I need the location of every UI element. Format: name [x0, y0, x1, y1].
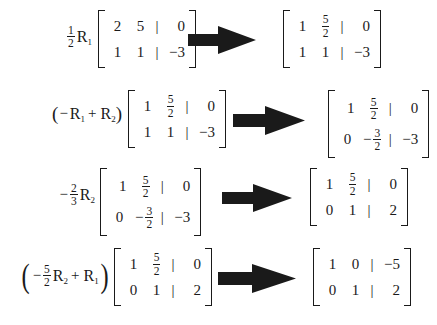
reduction-step-4: ( − 5 2 R2 + R1 ) 1 5 2 | 0 — [0, 240, 437, 320]
row-letter: R — [70, 105, 81, 122]
fraction-denominator: 2 — [349, 184, 357, 197]
matrix-row: 1 5 2 | 0 — [122, 251, 204, 277]
fraction-five-halves: 5 2 — [42, 263, 52, 289]
matrix-cell-fraction: 5 2 — [159, 93, 182, 119]
matrix-body: 1 5 2 | 0 0 − 3 2 — [335, 90, 422, 158]
fraction-denominator: 2 — [373, 139, 381, 152]
fraction-numerator: 1 — [67, 24, 75, 36]
fraction-denominator: 2 — [145, 217, 153, 230]
row-letter: R — [77, 28, 88, 45]
fraction-five-halves: 5 2 — [166, 93, 176, 119]
matrix-body: 1 5 2 | 0 0 1 | 2 — [121, 248, 205, 306]
bracket-right-icon — [422, 90, 429, 158]
fraction-numerator: 5 — [153, 251, 161, 263]
bracket-right-icon — [404, 248, 411, 306]
bracket-right-icon — [401, 168, 408, 226]
matrix-cell: 1 — [129, 45, 152, 60]
matrix-body: 2 5 | 0 1 1 | −3 — [105, 10, 189, 68]
row-symbol-R2: R2 — [100, 106, 116, 122]
augment-bar: | — [364, 177, 374, 192]
matrix-cell: 1 — [122, 257, 145, 272]
matrix-cell: 0 — [122, 283, 145, 298]
matrix-cell: −3 — [395, 132, 421, 147]
minus-sign: − — [134, 210, 144, 225]
fraction-five-halves: 5 2 — [321, 13, 331, 39]
reduction-step-1: 1 2 R1 2 5 | 0 1 1 | −3 — [0, 2, 437, 82]
matrix-row: 1 1 | −3 — [136, 119, 218, 145]
bracket-left-icon — [98, 10, 105, 68]
matrix-row: 1 5 2 | 0 — [336, 93, 421, 124]
matrix-cell: 1 — [291, 19, 314, 34]
row-index: 1 — [88, 37, 93, 47]
fraction-numerator: 3 — [145, 205, 153, 217]
bracket-left-icon — [328, 90, 335, 158]
matrix-row: 0 1 | 2 — [122, 277, 204, 303]
operation-label-1: 1 2 R1 — [0, 24, 92, 50]
fraction-denominator: 3 — [70, 194, 78, 207]
fraction-five-halves: 5 2 — [152, 251, 162, 277]
matrix-cell: −3 — [192, 125, 218, 140]
fraction-numerator: 5 — [349, 171, 357, 183]
row-index: 2 — [64, 276, 69, 286]
bracket-left-icon — [114, 248, 121, 306]
matrix-cell: 1 — [111, 179, 134, 194]
matrix-cell: 0 — [321, 283, 344, 298]
fraction-two-thirds: 2 3 — [69, 182, 79, 208]
matrix-row: 0 1 | 2 — [318, 197, 400, 223]
fraction-denominator: 2 — [43, 275, 51, 288]
matrix-cell-fraction: 5 2 — [314, 13, 337, 39]
matrix-row: 0 1 | 2 — [321, 277, 403, 303]
matrix-cell: −3 — [162, 45, 188, 60]
fraction-denominator: 2 — [167, 106, 175, 119]
minus-sign: − — [59, 187, 69, 202]
matrix-row: 1 5 2 | 0 — [318, 171, 400, 197]
augment-bar: | — [367, 283, 377, 298]
row-letter: R — [53, 267, 64, 284]
fraction-numerator: 3 — [373, 127, 381, 139]
matrix-row: 1 5 2 | 0 — [108, 171, 193, 202]
plus-sign: + — [68, 268, 82, 283]
operation-label-3: − 2 3 R2 — [0, 182, 95, 208]
matrix-cell: −3 — [347, 45, 373, 60]
fraction-five-halves: 5 2 — [141, 174, 151, 200]
fraction-five-halves: 5 2 — [369, 96, 379, 122]
operation-label-2: ( − R1 + R2 ) — [0, 104, 122, 123]
matrix-cell: 5 — [129, 19, 152, 34]
row-index: 1 — [81, 114, 86, 124]
minus-sign: − — [32, 268, 42, 283]
bracket-left-icon — [283, 10, 290, 68]
matrix-cell-fraction: − 3 2 — [359, 127, 385, 153]
augment-bar: | — [152, 45, 162, 60]
matrix-cell: 1 — [339, 101, 362, 116]
bracket-left-icon — [310, 168, 317, 226]
matrix-row: 1 0 | −5 — [321, 251, 403, 277]
matrix-row: 1 5 2 | 0 — [291, 13, 373, 39]
matrix-cell: 0 — [167, 179, 193, 194]
augment-bar: | — [385, 101, 395, 116]
augment-bar: | — [337, 19, 347, 34]
fraction-denominator: 2 — [370, 108, 378, 121]
matrix-body: 1 5 2 | 0 1 1 | −3 — [135, 90, 219, 148]
close-paren: ) — [100, 262, 108, 290]
open-paren: ( — [22, 262, 30, 290]
result-matrix-1: 1 5 2 | 0 1 1 | −3 — [283, 10, 381, 68]
matrix-cell-fraction: 5 2 — [145, 251, 168, 277]
fraction-denominator: 2 — [153, 264, 161, 277]
bracket-left-icon — [313, 248, 320, 306]
matrix-cell: 1 — [136, 99, 159, 114]
matrix-cell: 1 — [321, 257, 344, 272]
augment-bar: | — [367, 257, 377, 272]
fraction-three-halves: 3 2 — [372, 127, 382, 153]
matrix-cell: 0 — [336, 132, 359, 147]
matrix-cell: 1 — [318, 177, 341, 192]
matrix-cell: 0 — [344, 257, 367, 272]
reduction-step-3: − 2 3 R2 1 5 2 | 0 0 — [0, 160, 437, 240]
matrix-cell-fraction: 5 2 — [362, 96, 385, 122]
matrix-cell: 0 — [162, 19, 188, 34]
matrix-row: 1 1 | −3 — [106, 39, 188, 65]
fraction-five-halves: 5 2 — [348, 171, 358, 197]
augment-bar: | — [182, 125, 192, 140]
matrix-row: 2 5 | 0 — [106, 13, 188, 39]
matrix-cell-fraction: 5 2 — [341, 171, 364, 197]
fraction-denominator: 2 — [67, 36, 75, 49]
